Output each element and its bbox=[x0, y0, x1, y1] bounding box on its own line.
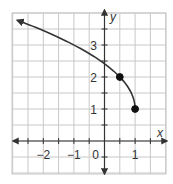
y-axis-label: y bbox=[109, 10, 117, 24]
y-tick-label: 3 bbox=[90, 39, 97, 53]
curve-path bbox=[17, 20, 135, 109]
grid-lines bbox=[12, 13, 166, 174]
point-marker bbox=[116, 74, 123, 81]
x-tick-label: −1 bbox=[67, 148, 81, 162]
graph-figure: −2−101123xy bbox=[0, 0, 173, 184]
y-tick-label: 2 bbox=[90, 71, 97, 85]
point-marker bbox=[132, 106, 139, 113]
y-tick-label: 1 bbox=[90, 103, 97, 117]
x-axis-label: x bbox=[156, 126, 164, 140]
coordinate-plane: −2−101123xy bbox=[0, 0, 173, 184]
x-tick-label: 1 bbox=[132, 148, 139, 162]
function-curve bbox=[17, 20, 135, 109]
tick-labels: −2−101123xy bbox=[36, 10, 164, 162]
x-tick-label: −2 bbox=[36, 148, 50, 162]
x-tick-label: 0 bbox=[92, 148, 99, 162]
